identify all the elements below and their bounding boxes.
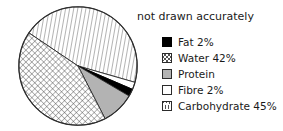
legend-swatch-fibre-icon	[162, 85, 172, 95]
legend-swatch-carbohydrate-icon	[162, 101, 172, 111]
legend-swatch-fat-icon	[162, 37, 172, 47]
legend-item-carbohydrate: Carbohydrate 45%	[162, 98, 282, 114]
legend-swatch-protein-icon	[162, 69, 172, 79]
legend-label-fat: Fat 2%	[178, 36, 214, 48]
legend-label-water: Water 42%	[178, 52, 236, 64]
pie-svg	[17, 5, 139, 127]
legend-item-water: Water 42%	[162, 50, 282, 66]
pie-chart-figure: not drawn accurately Fat 2% Water 42% Pr…	[0, 0, 283, 131]
legend-label-fibre: Fibre 2%	[178, 84, 223, 96]
legend-item-protein: Protein	[162, 66, 282, 82]
legend-item-fat: Fat 2%	[162, 34, 282, 50]
pie-chart-graphic	[17, 5, 139, 127]
legend-label-protein: Protein	[178, 68, 215, 80]
legend-label-carbohydrate: Carbohydrate 45%	[178, 100, 277, 112]
legend-swatch-water-icon	[162, 53, 172, 63]
legend-item-fibre: Fibre 2%	[162, 82, 282, 98]
chart-caption: not drawn accurately	[137, 10, 254, 23]
chart-legend: Fat 2% Water 42% Protein Fibre 2% Carboh…	[162, 34, 282, 114]
